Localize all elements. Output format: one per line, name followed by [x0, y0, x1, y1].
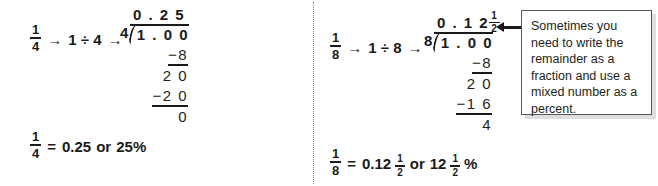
left-lead-expression: 1 ÷ 4	[68, 31, 101, 48]
callout-note-text: Sometimes you need to write the remainde…	[531, 18, 642, 117]
right-divisor-row: 8 1 . 0 0	[424, 32, 493, 51]
right-step-1: −8	[472, 53, 492, 74]
left-long-division: 0 . 2 5 4 1 . 0 0 −8 2 0 −2 0 0	[120, 24, 189, 126]
right-lead-expression: 1 ÷ 8	[368, 39, 401, 56]
left-lead: 1 4 → 1 ÷ 4 →	[30, 24, 123, 54]
right-lead: 1 8 → 1 ÷ 8 →	[330, 32, 423, 62]
division-bracket-icon: 1 . 0 0	[130, 24, 189, 43]
right-conclusion-row: 1 8 = 0.12 1 2 or 12 1 2 %	[330, 148, 477, 178]
left-conclusion-fraction: 1 4	[30, 130, 41, 160]
right-arrow-icon: →	[47, 32, 62, 47]
left-divisor-row: 4 1 . 0 0	[120, 24, 189, 43]
right-division-bracket-group: 0 . 1 2 1 2 8 1 . 0 0	[424, 32, 493, 51]
left-division-steps: −8 2 0 −2 0 0	[120, 45, 188, 126]
right-quotient: 0 . 1 2 1 2	[437, 8, 500, 32]
left-conclusion-or: or	[95, 138, 112, 155]
left-step-1: −8	[168, 45, 188, 66]
right-arrow-icon: →	[347, 40, 362, 55]
right-step-4: 4	[482, 115, 492, 134]
percent-sign: %	[464, 155, 477, 172]
left-step-3: −2 0	[152, 86, 188, 107]
arrow-head	[496, 22, 504, 32]
left-division-bracket-group: 0 . 2 5 4 1 . 0 0	[120, 24, 189, 43]
left-conclusion-percent: 25%	[116, 138, 146, 155]
left-conclusion-row: 1 4 = 0.25 or 25%	[30, 131, 146, 161]
right-conclusion-or: or	[409, 155, 426, 172]
right-conclusion-decimal-fraction: 1 2	[395, 154, 405, 178]
callout-note-box: Sometimes you need to write the remainde…	[521, 10, 652, 115]
left-conclusion-decimal: 0.25	[62, 138, 91, 155]
left-step-2: 2 0	[163, 66, 188, 85]
equals-sign: =	[345, 155, 358, 172]
right-long-division: 0 . 1 2 1 2 8 1 . 0 0 −8 2 0 −1 6 4	[424, 32, 493, 134]
left-example-lead-row: 1 4 → 1 ÷ 4 →	[30, 24, 123, 54]
right-example-lead-row: 1 8 → 1 ÷ 8 →	[330, 32, 423, 62]
division-bracket-icon: 1 . 0 0	[434, 32, 493, 51]
left-conclusion: 1 4 = 0.25 or 25%	[30, 131, 146, 161]
equals-sign: =	[45, 138, 58, 155]
right-conclusion-decimal-whole: 0.12	[362, 155, 391, 172]
right-conclusion-percent-whole: 12	[430, 155, 447, 172]
left-dividend: 1 . 0 0	[137, 26, 189, 43]
right-conclusion-fraction: 1 8	[330, 147, 341, 177]
right-lead-fraction: 1 8	[330, 31, 341, 61]
callout-pointer-arrow-icon	[496, 22, 522, 32]
right-step-2: 2 0	[467, 74, 492, 93]
right-conclusion: 1 8 = 0.12 1 2 or 12 1 2 %	[330, 148, 477, 178]
left-quotient: 0 . 2 5	[133, 6, 185, 23]
right-step-3: −1 6	[456, 94, 492, 115]
right-arrow-icon: →	[408, 40, 423, 55]
left-lead-fraction: 1 4	[30, 23, 41, 53]
right-conclusion-percent-fraction: 1 2	[450, 154, 460, 178]
right-dividend: 1 . 0 0	[441, 34, 493, 51]
arrow-shaft	[504, 26, 522, 29]
left-step-4: 0	[178, 107, 188, 126]
right-division-steps: −8 2 0 −1 6 4	[424, 53, 492, 134]
panel-divider	[313, 2, 314, 184]
